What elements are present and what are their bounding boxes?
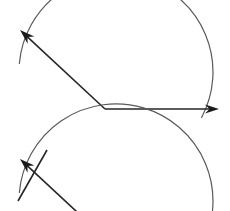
lower-diagonal-ray: [27, 165, 105, 211]
figure-canvas: [0, 0, 230, 211]
upper-diagonal-ray: [27, 36, 105, 109]
angle-arc-diagram: [0, 0, 230, 211]
upper-figure-group: [19, 0, 219, 117]
upper-arc-curve: [19, 0, 213, 117]
lower-figure-group: [18, 104, 213, 211]
lower-arc-curve: [19, 104, 213, 211]
